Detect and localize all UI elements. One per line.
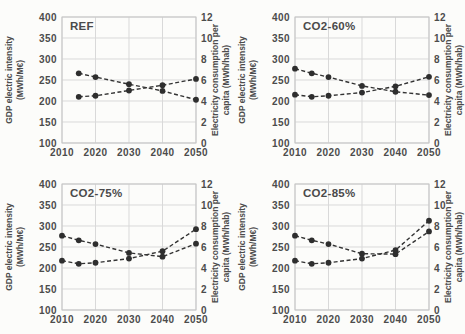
data-point-right: [126, 88, 132, 94]
data-point-left: [426, 229, 432, 235]
right-axis-tick-label: 8: [201, 54, 207, 65]
axis-title-line: GDP electric intensity: [4, 36, 15, 124]
axis-title-line: capita (MWh/hab): [454, 24, 465, 136]
left-axis-tick-label: 200: [39, 263, 57, 274]
x-axis-tick-label: 2050: [417, 314, 441, 325]
left-axis-tick-label: 250: [272, 75, 290, 86]
axis-title-line: (MWh/M€): [15, 203, 26, 291]
x-axis-tick-label: 2010: [50, 314, 74, 325]
right-axis-tick-label: 12: [201, 12, 213, 23]
left-axis-tick-label: 300: [39, 54, 57, 65]
data-point-left: [93, 241, 99, 247]
right-axis-tick-label: 4: [201, 263, 207, 274]
x-axis-tick-label: 2020: [84, 147, 108, 158]
chart-panel-co2-60: CO2-60% GDP electric intensity (MWh/M€) …: [233, 0, 465, 167]
data-point-left: [359, 83, 365, 89]
chart-panel-ref: REF GDP electric intensity (MWh/M€) Elec…: [0, 0, 232, 167]
data-point-right: [309, 261, 315, 267]
data-point-right: [193, 226, 199, 232]
right-axis-tick-label: 2: [434, 117, 440, 128]
panel-title-co2-60: CO2-60%: [303, 20, 356, 32]
x-axis-tick-label: 2050: [184, 314, 208, 325]
data-point-right: [426, 74, 432, 80]
left-axis-tick-label: 350: [39, 200, 57, 211]
right-axis-tick-label: 8: [434, 221, 440, 232]
data-point-right: [160, 248, 166, 254]
panel-title-co2-85: CO2-85%: [303, 187, 356, 199]
data-point-left: [93, 74, 99, 80]
left-axis-tick-label: 400: [39, 12, 57, 23]
line-chart: 4003503002502001501001210864202010202020…: [0, 0, 232, 167]
data-point-right: [93, 93, 99, 99]
left-axis-tick-label: 300: [272, 54, 290, 65]
data-point-right: [59, 258, 65, 264]
data-point-right: [76, 94, 82, 100]
left-axis-tick-label: 150: [39, 284, 57, 295]
right-axis-tick-label: 4: [434, 96, 440, 107]
axis-title-line: GDP electric intensity: [237, 36, 248, 124]
right-axis-tick-label: 12: [434, 12, 446, 23]
left-axis-title: GDP electric intensity (MWh/M€): [237, 36, 259, 124]
data-point-left: [160, 254, 166, 260]
x-axis-tick-label: 2020: [317, 314, 341, 325]
left-axis-tick-label: 400: [39, 179, 57, 190]
right-axis-tick-label: 6: [201, 75, 207, 86]
left-axis-tick-label: 350: [39, 33, 57, 44]
data-point-right: [160, 82, 166, 88]
right-axis-title: Electricity consumption per capita (MWh/…: [443, 191, 465, 303]
data-point-right: [76, 261, 82, 267]
x-axis-tick-label: 2040: [384, 147, 408, 158]
x-axis-tick-label: 2020: [84, 314, 108, 325]
data-point-left: [59, 233, 65, 239]
chart-panel-co2-75: CO2-75% GDP electric intensity (MWh/M€) …: [0, 167, 232, 334]
data-point-right: [326, 93, 332, 99]
data-point-left: [326, 241, 332, 247]
right-axis-tick-label: 8: [434, 54, 440, 65]
data-point-right: [393, 247, 399, 253]
right-axis-tick-label: 2: [434, 284, 440, 295]
data-point-left: [160, 88, 166, 94]
x-axis-tick-label: 2030: [350, 314, 374, 325]
axis-title-line: GDP electric intensity: [4, 203, 15, 291]
left-axis-tick-label: 250: [39, 75, 57, 86]
x-axis-tick-label: 2030: [117, 314, 141, 325]
x-axis-tick-label: 2040: [151, 314, 175, 325]
axis-title-line: (MWh/M€): [15, 36, 26, 124]
left-axis-tick-label: 250: [272, 242, 290, 253]
right-axis-tick-label: 6: [201, 242, 207, 253]
data-point-right: [292, 258, 298, 264]
data-point-left: [193, 241, 199, 247]
left-axis-tick-label: 350: [272, 33, 290, 44]
axis-title-line: capita (MWh/hab): [221, 191, 232, 303]
data-point-right: [326, 260, 332, 266]
right-axis-tick-label: 4: [434, 263, 440, 274]
chart-panel-co2-85: CO2-85% GDP electric intensity (MWh/M€) …: [233, 167, 465, 334]
right-axis-title: Electricity consumption per capita (MWh/…: [210, 191, 232, 303]
right-axis-tick-label: 12: [201, 179, 213, 190]
x-axis-tick-label: 2010: [283, 147, 307, 158]
data-point-left: [76, 237, 82, 243]
axis-title-line: capita (MWh/hab): [454, 191, 465, 303]
data-point-right: [393, 83, 399, 89]
data-point-right: [126, 256, 132, 262]
axis-title-line: (MWh/M€): [248, 203, 259, 291]
data-point-right: [359, 90, 365, 96]
axis-title-line: Electricity consumption per: [210, 24, 221, 136]
right-axis-tick-label: 8: [201, 221, 207, 232]
left-axis-tick-label: 200: [272, 96, 290, 107]
right-axis-tick-label: 4: [201, 96, 207, 107]
x-axis-tick-label: 2020: [317, 147, 341, 158]
axis-title-line: Electricity consumption per: [443, 191, 454, 303]
axis-title-line: Electricity consumption per: [443, 24, 454, 136]
data-point-right: [309, 94, 315, 100]
data-point-left: [126, 81, 132, 87]
data-point-right: [292, 92, 298, 98]
left-axis-tick-label: 300: [272, 221, 290, 232]
left-axis-tick-label: 350: [272, 200, 290, 211]
left-axis-tick-label: 150: [272, 117, 290, 128]
left-axis-tick-label: 200: [272, 263, 290, 274]
data-point-right: [193, 76, 199, 82]
data-point-right: [426, 218, 432, 224]
left-axis-title: GDP electric intensity (MWh/M€): [4, 203, 26, 291]
scenario-charts-grid: REF GDP electric intensity (MWh/M€) Elec…: [0, 0, 465, 334]
